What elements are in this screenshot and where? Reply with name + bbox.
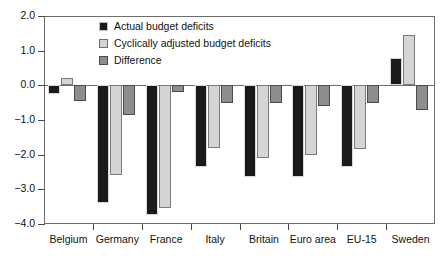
x-axis-tick <box>93 224 94 230</box>
x-axis-tick <box>337 224 338 230</box>
y-axis-tick <box>38 51 45 52</box>
y-axis-label: 0.0 <box>1 79 35 89</box>
legend-swatch-icon <box>99 22 108 31</box>
bar <box>159 85 171 208</box>
y-axis-tick <box>38 85 45 86</box>
bar <box>354 85 366 149</box>
x-axis-category-label: EU-15 <box>337 233 386 246</box>
x-axis-category-label: France <box>142 233 191 246</box>
x-axis-tick <box>240 224 241 230</box>
legend-item: Cyclically adjusted budget deficits <box>99 36 271 51</box>
x-axis-category-label: Germany <box>93 233 142 246</box>
bar <box>221 85 233 102</box>
y-axis-label: 1.0 <box>1 45 35 55</box>
x-axis-category-label: Sweden <box>386 233 435 246</box>
legend-item: Difference <box>99 53 271 68</box>
bar <box>123 85 135 114</box>
bar <box>48 85 60 94</box>
legend-item-label: Difference <box>114 55 162 66</box>
budget-deficits-bar-chart: 2.01.00.0−1.0−2.0−3.0−4.0BelgiumGermanyF… <box>0 0 448 265</box>
legend-swatch-icon <box>99 56 108 65</box>
bar <box>270 85 282 102</box>
bar <box>208 85 220 147</box>
bar <box>74 85 86 101</box>
legend-item-label: Actual budget deficits <box>114 21 214 32</box>
y-axis-tick <box>38 189 45 190</box>
bar <box>97 85 109 203</box>
legend-item-label: Cyclically adjusted budget deficits <box>114 38 271 49</box>
bar <box>244 85 256 177</box>
x-axis-tick <box>191 224 192 230</box>
bar <box>305 85 317 154</box>
bar <box>110 85 122 175</box>
chart-legend: Actual budget deficitsCyclically adjuste… <box>99 19 271 70</box>
x-axis-category-label: Belgium <box>44 233 93 246</box>
bar <box>341 85 353 166</box>
x-axis-category-label: Britain <box>240 233 289 246</box>
bar <box>318 85 330 106</box>
bar <box>195 85 207 166</box>
y-axis-label: −2.0 <box>1 149 35 159</box>
x-axis-tick <box>288 224 289 230</box>
bar <box>390 58 402 86</box>
bar <box>172 85 184 92</box>
y-axis-label: −1.0 <box>1 114 35 124</box>
y-axis-tick <box>38 155 45 156</box>
y-axis-tick <box>38 16 45 17</box>
legend-swatch-icon <box>99 39 108 48</box>
y-axis-tick <box>38 120 45 121</box>
x-axis-tick <box>386 224 387 230</box>
bar <box>367 85 379 102</box>
bar <box>146 85 158 215</box>
bar <box>416 85 428 109</box>
x-axis-tick <box>142 224 143 230</box>
bar <box>257 85 269 158</box>
y-axis-label: −4.0 <box>1 218 35 228</box>
x-axis-category-label: Euro area <box>288 233 337 246</box>
y-axis-tick <box>38 224 45 225</box>
bar <box>292 85 304 177</box>
legend-item: Actual budget deficits <box>99 19 271 34</box>
bar <box>61 78 73 85</box>
bar <box>403 35 415 85</box>
y-axis-label: −3.0 <box>1 183 35 193</box>
x-axis-category-label: Italy <box>191 233 240 246</box>
y-axis-label: 2.0 <box>1 10 35 20</box>
